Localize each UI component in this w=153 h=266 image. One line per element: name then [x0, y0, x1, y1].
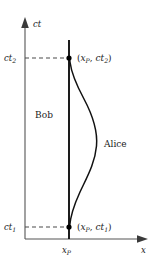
tick-label-ct1: ct1 — [4, 222, 16, 233]
event-bottom-close-paren: ) — [108, 222, 112, 232]
event-top-close-paren: ) — [108, 53, 112, 63]
event-dot-top — [66, 55, 71, 60]
event-dot-bottom — [66, 224, 71, 229]
x-axis-label: x — [141, 245, 146, 255]
x-axis-arrowhead — [137, 235, 148, 243]
ct-axis-label: ct — [33, 19, 42, 29]
worldline-label-alice: Alice — [103, 139, 127, 149]
spacetime-diagram: ct x ct2 ct1 xP (xP, ct2) (xP, ct1) Bob … — [0, 0, 153, 266]
event-bottom-t-base: ct — [96, 222, 105, 232]
tick-xp-subscript: P — [66, 249, 72, 256]
ct-axis-arrowhead — [21, 17, 29, 28]
tick-ct2-subscript: 2 — [11, 57, 16, 64]
event-label-bottom: (xP, ct1) — [77, 222, 112, 233]
worldline-alice — [70, 58, 97, 227]
figure-canvas: ct x ct2 ct1 xP (xP, ct2) (xP, ct1) Bob … — [0, 0, 153, 266]
tick-label-ct2: ct2 — [4, 53, 16, 64]
event-label-top: (xP, ct2) — [77, 53, 112, 64]
tick-label-xp: xP — [62, 245, 72, 256]
event-top-t-base: ct — [96, 53, 105, 63]
worldline-label-bob: Bob — [35, 110, 53, 120]
tick-ct1-subscript: 1 — [12, 226, 16, 233]
